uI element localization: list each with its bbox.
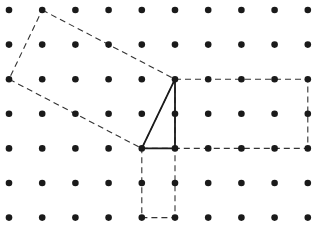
grid-dot xyxy=(39,111,46,118)
grid-dot xyxy=(271,7,278,14)
grid-dot xyxy=(172,76,179,83)
grid-dot xyxy=(205,111,212,118)
grid-dot xyxy=(72,76,79,83)
grid-dot xyxy=(305,41,312,48)
grid-dot xyxy=(172,145,179,152)
grid-dot xyxy=(105,7,112,14)
grid-dot xyxy=(139,214,146,221)
grid-dot xyxy=(105,41,112,48)
grid-dot xyxy=(139,41,146,48)
grid-dot xyxy=(238,214,245,221)
grid-dot xyxy=(72,111,79,118)
grid-dot xyxy=(305,180,312,187)
shapes-layer xyxy=(9,10,308,218)
grid-dot xyxy=(39,41,46,48)
grid-dot xyxy=(238,7,245,14)
grid-dot xyxy=(105,180,112,187)
grid-dot xyxy=(305,76,312,83)
grid-dot xyxy=(172,214,179,221)
diagram-svg xyxy=(0,0,317,227)
grid-dot xyxy=(72,7,79,14)
grid-dot xyxy=(305,214,312,221)
grid-dot xyxy=(271,180,278,187)
grid-dot xyxy=(205,180,212,187)
grid-dot xyxy=(305,111,312,118)
grid-dot xyxy=(6,214,13,221)
grid-dot xyxy=(39,214,46,221)
grid-dot xyxy=(271,41,278,48)
grid-dot xyxy=(6,7,13,14)
grid-dot xyxy=(172,111,179,118)
grid-dot xyxy=(105,214,112,221)
grid-dot xyxy=(238,111,245,118)
rectangle-on-horizontal-side xyxy=(142,148,175,217)
grid-dot xyxy=(6,76,13,83)
grid-dot xyxy=(72,214,79,221)
grid-dot xyxy=(205,214,212,221)
grid-dot xyxy=(305,145,312,152)
grid-dot xyxy=(271,214,278,221)
grid-dot xyxy=(6,111,13,118)
grid-dot xyxy=(238,41,245,48)
tilted-square-on-hypotenuse xyxy=(9,10,175,148)
grid-dot xyxy=(39,145,46,152)
grid-dot xyxy=(6,180,13,187)
dot-grid-diagram xyxy=(0,0,317,227)
grid-dot xyxy=(205,76,212,83)
grid-dot xyxy=(172,41,179,48)
right-triangle xyxy=(142,79,175,148)
grid-dot xyxy=(72,41,79,48)
grid-dot xyxy=(238,76,245,83)
grid-dot xyxy=(105,76,112,83)
grid-dot xyxy=(139,145,146,152)
grid-dot xyxy=(139,7,146,14)
grid-dot xyxy=(6,145,13,152)
grid-dot xyxy=(172,180,179,187)
grid-dot xyxy=(271,76,278,83)
grid-dot xyxy=(238,145,245,152)
grid-dot xyxy=(238,180,245,187)
grid-dot xyxy=(39,76,46,83)
grid-dot xyxy=(271,145,278,152)
grid-dot xyxy=(39,7,46,14)
grid-dot xyxy=(139,76,146,83)
grid-dot xyxy=(105,145,112,152)
grid-dot xyxy=(172,7,179,14)
grid-dot xyxy=(6,41,13,48)
grid-dot xyxy=(72,180,79,187)
grid-dot xyxy=(139,111,146,118)
grid-dot xyxy=(205,145,212,152)
grid-dot xyxy=(205,41,212,48)
grid-dot xyxy=(72,145,79,152)
grid-dot xyxy=(205,7,212,14)
grid-dot xyxy=(305,7,312,14)
grid-dot xyxy=(39,180,46,187)
grid-dot xyxy=(105,111,112,118)
grid-dot xyxy=(139,180,146,187)
grid-dot xyxy=(271,111,278,118)
